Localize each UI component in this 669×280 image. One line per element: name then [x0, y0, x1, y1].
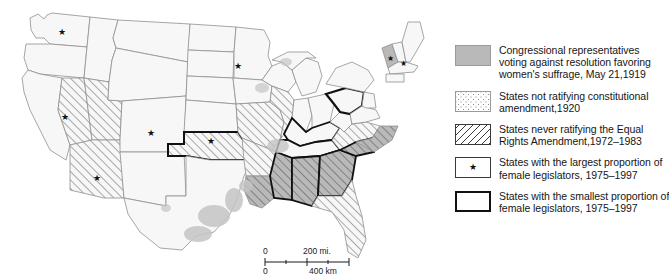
us-map[interactable]: ★ ★ ★ ★ ★ ★ ★ ★ 0 200 mi. — [0, 0, 450, 280]
star-new-hampshire: ★ — [400, 59, 407, 68]
legend-item-not-ratifying-amendment[interactable]: States not ratifying constitutional amen… — [455, 90, 663, 114]
state-arizona[interactable] — [70, 140, 124, 198]
scale-miles-max-label: 200 mi. — [303, 247, 331, 256]
legend-item-smallest-female-legislators[interactable]: States with the smallest proportion of f… — [455, 190, 663, 214]
state-new-york[interactable] — [326, 62, 374, 92]
scale-ruler-graphic — [263, 257, 353, 267]
state-alabama[interactable] — [292, 156, 320, 206]
scale-km-zero-label: 0 — [263, 267, 268, 276]
map-base-layer: ★ ★ ★ ★ ★ ★ ★ ★ — [22, 13, 424, 258]
star-arizona: ★ — [93, 173, 101, 183]
star-nevada: ★ — [61, 112, 69, 122]
star-washington: ★ — [58, 27, 66, 37]
state-minnesota[interactable] — [234, 27, 272, 80]
star-colorado: ★ — [147, 128, 155, 138]
legend-swatch-thick-outline — [455, 191, 491, 212]
star-vermont: ★ — [387, 54, 394, 63]
star-kansas: ★ — [207, 136, 215, 146]
state-maine[interactable] — [402, 22, 424, 62]
legend-swatch-solid-gray — [455, 45, 491, 66]
state-new-jersey[interactable] — [362, 92, 376, 108]
legend-label-largest-female-legislators: States with the largest proportion of fe… — [499, 156, 662, 180]
state-south-dakota[interactable] — [187, 50, 234, 78]
legend-label-congressional-votes: Congressional representatives voting aga… — [499, 44, 651, 81]
legend-swatch-star-box: ★ — [455, 157, 491, 178]
legend-label-era-never-ratified: States never ratifying the Equal Rights … — [499, 123, 643, 147]
scale-bar: 0 200 mi. 0 400 km — [263, 247, 373, 277]
state-mississippi[interactable] — [270, 152, 292, 200]
state-connecticut-rhodeisland[interactable] — [386, 74, 404, 82]
legend-item-era-never-ratified[interactable]: States never ratifying the Equal Rights … — [455, 123, 663, 147]
legend-label-smallest-female-legislators: States with the smallest proportion of f… — [499, 190, 669, 214]
scale-miles-zero-label: 0 — [263, 247, 268, 256]
map-legend: Congressional representatives voting aga… — [455, 44, 663, 223]
legend-swatch-diagonal-hatch — [455, 124, 491, 145]
star-minnesota: ★ — [234, 61, 242, 71]
scale-km-max-label: 400 km — [309, 267, 337, 276]
us-map-svg[interactable]: ★ ★ ★ ★ ★ ★ ★ ★ — [0, 0, 450, 280]
state-north-dakota[interactable] — [188, 24, 236, 52]
state-kansas[interactable] — [184, 100, 238, 132]
legend-label-not-ratifying-amendment: States not ratifying constitutional amen… — [499, 90, 648, 114]
legend-item-congressional-votes[interactable]: Congressional representatives voting aga… — [455, 44, 663, 81]
state-nebraska[interactable] — [186, 76, 236, 104]
star-icon: ★ — [469, 163, 477, 172]
legend-item-largest-female-legislators[interactable]: ★ States with the largest proportion of … — [455, 156, 663, 180]
legend-swatch-dotted — [455, 91, 491, 112]
